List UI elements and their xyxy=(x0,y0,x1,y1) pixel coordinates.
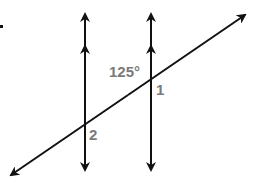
transversal-line xyxy=(11,15,245,175)
left-parallel-line xyxy=(80,14,90,170)
angle-label-1: 1 xyxy=(156,82,164,97)
angle-label-2: 2 xyxy=(89,127,97,142)
geometry-figure xyxy=(0,0,259,178)
diagram: 125° 1 2 xyxy=(0,0,259,178)
right-parallel-line xyxy=(146,14,156,170)
angle-label-125: 125° xyxy=(109,64,140,79)
stray-mark xyxy=(0,25,3,28)
